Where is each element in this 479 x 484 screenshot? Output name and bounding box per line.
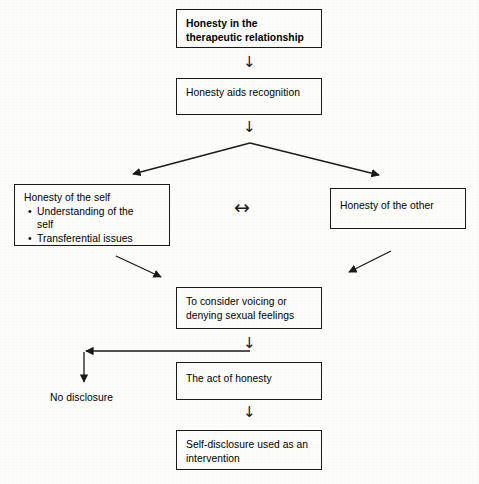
node-self-disclosure-intervention-label: Self-disclosure used as an intervention xyxy=(186,438,316,465)
node-to-consider-voicing-label: To consider voicing or denying sexual fe… xyxy=(186,295,316,322)
connector-branch-right xyxy=(250,143,379,175)
down-arrow-icon-root-to-recognition: ↓ xyxy=(243,55,256,70)
bidirectional-arrow-icon-self-other: ↔ xyxy=(234,200,250,215)
flowchart-canvas: Honesty in the therapeutic relationship … xyxy=(0,0,479,484)
node-honesty-of-the-self-content: Honesty of the self Understanding of the… xyxy=(24,191,165,245)
node-to-consider-voicing: To consider voicing or denying sexual fe… xyxy=(176,287,322,329)
connector-branch-left xyxy=(133,143,250,174)
node-honesty-of-the-other: Honesty of the other xyxy=(330,188,466,229)
node-root-label: Honesty in the therapeutic relationship xyxy=(186,17,316,44)
node-honesty-of-the-self-heading: Honesty of the self xyxy=(24,191,165,205)
down-arrow-icon-act-to-self-disclosure: ↓ xyxy=(243,405,256,420)
node-the-act-of-honesty: The act of honesty xyxy=(176,362,322,400)
node-honesty-of-the-self-bullet-list: Understanding of the self Transferential… xyxy=(24,205,165,246)
node-honesty-aids-recognition: Honesty aids recognition xyxy=(176,78,322,115)
bullet-item: Transferential issues xyxy=(37,232,165,246)
node-honesty-of-the-other-label: Honesty of the other xyxy=(340,199,460,213)
bullet-item: Understanding of the self xyxy=(37,205,165,232)
node-root: Honesty in the therapeutic relationship xyxy=(176,9,322,48)
node-honesty-of-the-self: Honesty of the self Understanding of the… xyxy=(14,184,170,246)
node-self-disclosure-intervention: Self-disclosure used as an intervention xyxy=(176,430,322,470)
connector-self-to-consider xyxy=(116,256,161,277)
node-honesty-aids-recognition-label: Honesty aids recognition xyxy=(186,86,316,100)
down-arrow-icon-recognition-to-branch: ↓ xyxy=(243,120,256,135)
down-arrow-icon-consider-to-act: ↓ xyxy=(243,336,256,351)
node-the-act-of-honesty-label: The act of honesty xyxy=(186,372,316,386)
label-no-disclosure: No disclosure xyxy=(50,391,113,404)
connector-other-to-consider xyxy=(349,251,391,272)
